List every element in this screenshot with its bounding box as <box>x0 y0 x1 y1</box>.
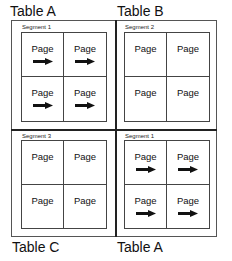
page-cell: Page <box>64 77 106 121</box>
horizontal-divider <box>11 129 217 131</box>
arrow-right-icon <box>33 58 53 65</box>
page-cell: Page <box>167 33 209 77</box>
page-cell: Page <box>22 141 64 185</box>
page-label: Page <box>74 195 96 206</box>
table-label-b: Table B <box>117 3 164 19</box>
arrow-right-icon <box>33 102 53 109</box>
page-label: Page <box>31 195 53 206</box>
page-label: Page <box>134 195 156 206</box>
page-cell: Page <box>167 141 209 185</box>
page-cell: Page <box>22 77 64 121</box>
segment-label-q3: Segment 3 <box>22 133 51 140</box>
segment-grid-q4: Page Page Page Page <box>124 140 210 229</box>
page-label: Page <box>31 151 53 162</box>
arrow-right-icon <box>136 166 156 173</box>
page-cell: Page <box>22 33 64 77</box>
page-label: Page <box>134 151 156 162</box>
page-label: Page <box>31 43 53 54</box>
segment-grid-q2: Page Page Page Page <box>124 32 210 122</box>
page-label: Page <box>31 87 53 98</box>
page-label: Page <box>134 43 156 54</box>
page-cell: Page <box>167 77 209 121</box>
segment-grid-q3: Page Page Page Page <box>21 140 107 229</box>
arrow-right-icon <box>75 58 95 65</box>
page-label: Page <box>134 87 156 98</box>
arrow-right-icon <box>178 210 198 217</box>
page-cell: Page <box>64 33 106 77</box>
segment-label-q2: Segment 2 <box>125 24 154 31</box>
page-cell: Page <box>64 141 106 185</box>
arrow-right-icon <box>178 166 198 173</box>
page-cell: Page <box>167 185 209 229</box>
table-label-a-bottom: Table A <box>117 239 163 255</box>
page-label: Page <box>177 151 199 162</box>
segment-label-q4: Segment 1 <box>125 133 154 140</box>
page-label: Page <box>177 195 199 206</box>
page-label: Page <box>74 151 96 162</box>
page-cell: Page <box>22 185 64 229</box>
arrow-right-icon <box>75 102 95 109</box>
table-label-a-top: Table A <box>10 3 56 19</box>
page-label: Page <box>74 87 96 98</box>
page-cell: Page <box>125 77 167 121</box>
page-cell: Page <box>64 185 106 229</box>
page-label: Page <box>177 43 199 54</box>
page-cell: Page <box>125 185 167 229</box>
table-label-c: Table C <box>12 239 59 255</box>
page-label: Page <box>177 87 199 98</box>
page-label: Page <box>74 43 96 54</box>
arrow-right-icon <box>136 210 156 217</box>
segment-grid-q1: Page Page Page Page <box>21 32 107 122</box>
page-cell: Page <box>125 141 167 185</box>
page-cell: Page <box>125 33 167 77</box>
segment-label-q1: Segment 1 <box>22 24 51 31</box>
